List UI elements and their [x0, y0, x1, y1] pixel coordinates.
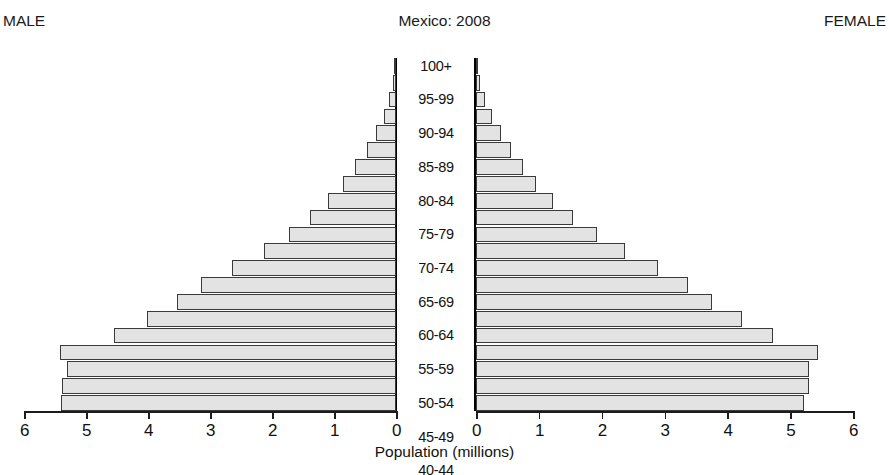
male-bar — [376, 125, 396, 141]
male-bar — [328, 193, 396, 209]
x-tick-label-left: 2 — [258, 421, 288, 441]
female-bar — [476, 294, 712, 310]
pyramid-row: 45-49 — [0, 243, 889, 260]
x-tick-label-left: 6 — [10, 421, 40, 441]
pyramid-row: 90-94 — [0, 92, 889, 109]
x-tick-left — [272, 411, 274, 419]
x-tick-label-right: 4 — [713, 421, 743, 441]
male-bar — [264, 243, 396, 259]
female-bar — [476, 210, 573, 226]
x-tick-left — [86, 411, 88, 419]
male-bar — [147, 311, 396, 327]
pyramid-row: 30-34 — [0, 294, 889, 311]
male-bar — [114, 328, 396, 344]
male-bar — [393, 75, 396, 91]
pyramid-row: 35-39 — [0, 277, 889, 294]
x-tick-label-right: 1 — [525, 421, 555, 441]
pyramid-row: 60-64 — [0, 193, 889, 210]
x-tick-label-right: 0 — [462, 421, 492, 441]
pyramid-row: 20-24 — [0, 328, 889, 345]
x-tick-left — [210, 411, 212, 419]
female-bar — [476, 58, 478, 74]
x-tick-left — [334, 411, 336, 419]
x-tick-label-left: 1 — [320, 421, 350, 441]
male-bar — [367, 142, 396, 158]
pyramid-row: 70-74 — [0, 159, 889, 176]
x-tick-label-left: 0 — [382, 421, 412, 441]
x-tick-label-right: 5 — [776, 421, 806, 441]
male-bar — [289, 227, 396, 243]
x-tick-label-right: 6 — [839, 421, 869, 441]
male-bar — [60, 345, 396, 361]
male-bar — [61, 395, 396, 411]
female-bar — [476, 142, 511, 158]
chart-title: Mexico: 2008 — [0, 12, 889, 30]
age-group-label: 40-44 — [396, 463, 476, 475]
x-tick-right — [665, 411, 667, 419]
x-tick-label-right: 3 — [650, 421, 680, 441]
female-bar — [476, 92, 485, 108]
female-side-label: FEMALE — [824, 12, 886, 30]
male-bar — [355, 159, 396, 175]
age-group-label: 100+ — [396, 59, 476, 74]
pyramid-row: 0-4 — [0, 395, 889, 412]
male-bar — [201, 277, 396, 293]
female-bar — [476, 125, 501, 141]
female-bar — [476, 311, 742, 327]
female-bar — [476, 193, 553, 209]
population-pyramid-chart: MALE Mexico: 2008 FEMALE 100+95-9990-948… — [0, 0, 889, 475]
female-bar — [476, 109, 492, 125]
x-tick-left — [396, 411, 398, 419]
female-bar — [476, 361, 809, 377]
female-bar — [476, 75, 480, 91]
female-bar — [476, 260, 658, 276]
pyramid-row: 15-19 — [0, 345, 889, 362]
x-tick-right — [853, 411, 855, 419]
female-bar — [476, 345, 818, 361]
x-tick-label-left: 3 — [196, 421, 226, 441]
pyramid-row: 75-79 — [0, 142, 889, 159]
x-tick-label-right: 2 — [587, 421, 617, 441]
pyramid-row: 10-14 — [0, 361, 889, 378]
male-bar — [232, 260, 396, 276]
female-bar — [476, 395, 804, 411]
x-tick-right — [602, 411, 604, 419]
female-bar — [476, 243, 625, 259]
female-bar — [476, 176, 536, 192]
male-bar — [389, 92, 396, 108]
x-tick-left — [148, 411, 150, 419]
x-tick-right — [539, 411, 541, 419]
pyramid-row: 65-69 — [0, 176, 889, 193]
female-bar — [476, 378, 809, 394]
x-tick-right — [476, 411, 478, 419]
x-tick-label-left: 4 — [134, 421, 164, 441]
x-tick-label-left: 5 — [72, 421, 102, 441]
x-tick-right — [790, 411, 792, 419]
pyramid-row: 100+ — [0, 58, 889, 75]
x-axis: 65432100123456 — [0, 411, 889, 412]
male-bar — [177, 294, 396, 310]
x-tick-right — [727, 411, 729, 419]
female-bar — [476, 159, 523, 175]
pyramid-row: 50-54 — [0, 227, 889, 244]
male-bar — [310, 210, 396, 226]
x-tick-left — [24, 411, 26, 419]
male-bar — [343, 176, 396, 192]
pyramid-row: 95-99 — [0, 75, 889, 92]
plot-area: 100+95-9990-9485-8980-8475-7970-7465-696… — [0, 58, 889, 412]
pyramid-row: 40-44 — [0, 260, 889, 277]
male-bar — [62, 378, 396, 394]
male-bar — [67, 361, 396, 377]
pyramid-row: 85-89 — [0, 109, 889, 126]
female-bar — [476, 328, 773, 344]
pyramid-row: 80-84 — [0, 125, 889, 142]
pyramid-row: 55-59 — [0, 210, 889, 227]
pyramid-row: 5-9 — [0, 378, 889, 395]
female-bar — [476, 277, 688, 293]
pyramid-row: 25-29 — [0, 311, 889, 328]
female-bar — [476, 227, 597, 243]
x-axis-label: Population (millions) — [0, 443, 889, 461]
male-bar — [384, 109, 396, 125]
